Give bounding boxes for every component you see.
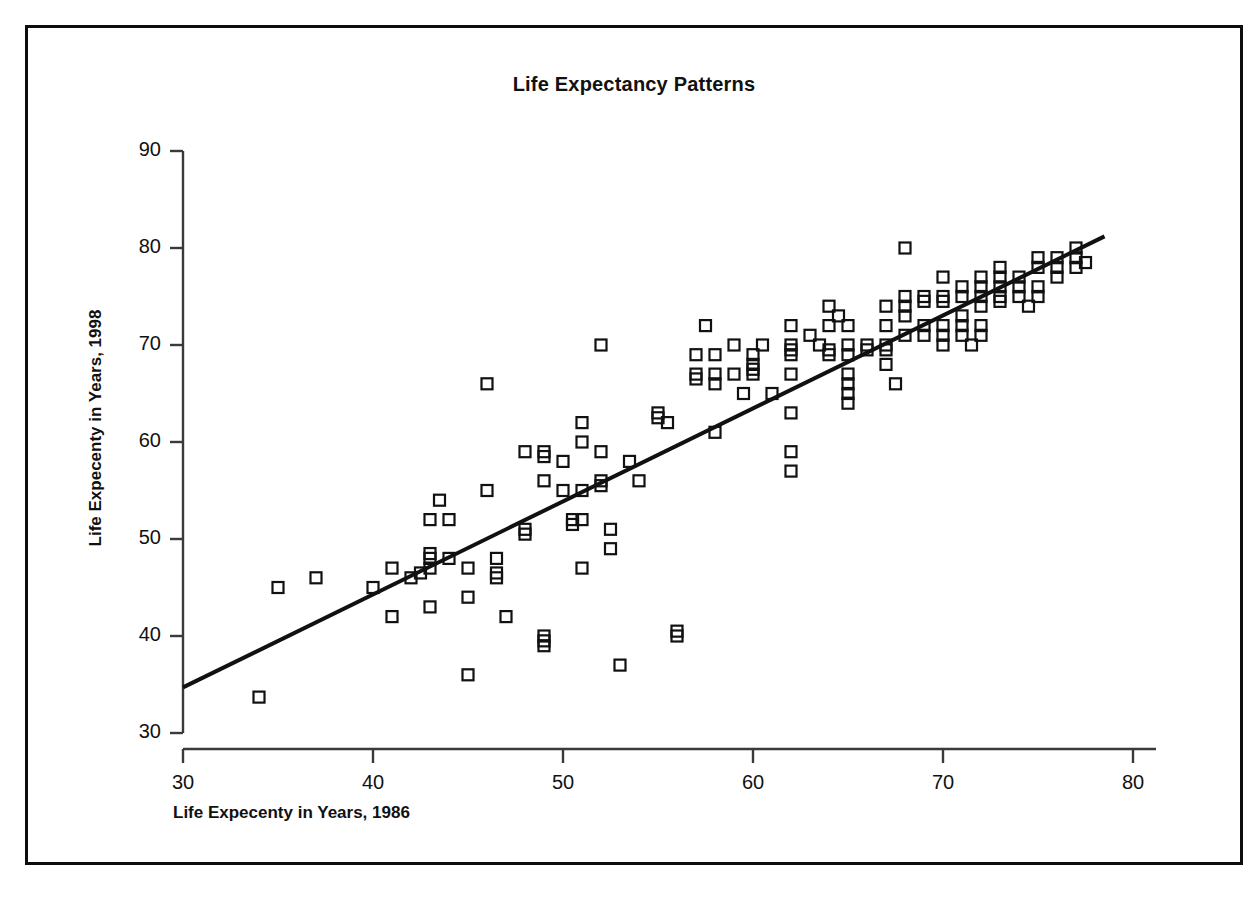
- y-axis-tick-label: 60: [109, 429, 161, 452]
- x-axis-tick-label: 40: [343, 771, 403, 794]
- data-point-marker: [691, 349, 702, 360]
- data-point-marker: [786, 446, 797, 457]
- data-point-marker: [881, 359, 892, 370]
- figure-frame: Life Expectancy Patterns 30405060708090 …: [25, 25, 1243, 865]
- data-point-marker: [463, 592, 474, 603]
- x-axis-title: Life Expecenty in Years, 1986: [173, 803, 410, 823]
- data-point-marker: [387, 611, 398, 622]
- data-point-marker: [425, 514, 436, 525]
- scatter-plot-canvas: [28, 28, 1240, 862]
- x-axis-tick-label: 80: [1103, 771, 1163, 794]
- data-point-marker: [558, 485, 569, 496]
- data-point-marker: [434, 495, 445, 506]
- data-point-marker: [463, 669, 474, 680]
- y-axis-tick-label: 30: [109, 720, 161, 743]
- data-point-marker: [729, 369, 740, 380]
- data-point-marker: [444, 514, 455, 525]
- trend-line: [183, 236, 1105, 687]
- data-point-marker: [605, 543, 616, 554]
- data-point-marker: [634, 475, 645, 486]
- data-point-marker: [729, 340, 740, 351]
- data-points: [254, 243, 1092, 703]
- data-point-marker: [501, 611, 512, 622]
- data-point-marker: [605, 524, 616, 535]
- x-axis-tick-label: 60: [723, 771, 783, 794]
- trend-line-segment: [183, 236, 1105, 687]
- data-point-marker: [463, 563, 474, 574]
- y-axis-tick-label: 70: [109, 332, 161, 355]
- data-point-marker: [539, 475, 550, 486]
- data-point-marker: [938, 272, 949, 283]
- data-point-marker: [311, 572, 322, 583]
- y-axis-tick-label: 90: [109, 138, 161, 161]
- data-point-marker: [577, 563, 588, 574]
- y-axis-tick-label: 80: [109, 235, 161, 258]
- data-point-marker: [615, 660, 626, 671]
- data-point-marker: [900, 243, 911, 254]
- data-point-marker: [491, 553, 502, 564]
- data-point-marker: [425, 601, 436, 612]
- data-point-marker: [482, 485, 493, 496]
- y-axis-tick-label: 40: [109, 623, 161, 646]
- data-point-marker: [596, 446, 607, 457]
- data-point-marker: [786, 466, 797, 477]
- data-point-marker: [596, 340, 607, 351]
- y-axis-tick-label: 50: [109, 526, 161, 549]
- data-point-marker: [786, 320, 797, 331]
- data-point-marker: [254, 692, 265, 703]
- data-point-marker: [482, 378, 493, 389]
- x-axis-tick-label: 30: [153, 771, 213, 794]
- data-point-marker: [577, 417, 588, 428]
- data-point-marker: [387, 563, 398, 574]
- data-point-marker: [558, 456, 569, 467]
- data-point-marker: [577, 437, 588, 448]
- data-point-marker: [520, 446, 531, 457]
- y-axis-title: Life Expecenty in Years, 1998: [86, 278, 106, 578]
- data-point-marker: [786, 369, 797, 380]
- data-point-marker: [738, 388, 749, 399]
- data-point-marker: [710, 349, 721, 360]
- x-axis-tick-label: 50: [533, 771, 593, 794]
- data-point-marker: [881, 320, 892, 331]
- x-axis-tick-label: 70: [913, 771, 973, 794]
- axes-group: [170, 151, 1156, 763]
- data-point-marker: [273, 582, 284, 593]
- data-point-marker: [890, 378, 901, 389]
- data-point-marker: [700, 320, 711, 331]
- data-point-marker: [881, 301, 892, 312]
- data-point-marker: [786, 407, 797, 418]
